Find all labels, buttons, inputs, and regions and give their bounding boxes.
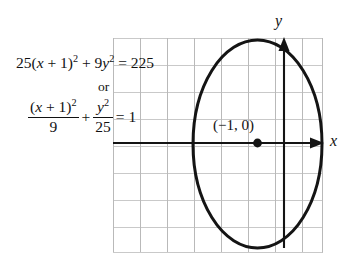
eq1-equals: = 225 xyxy=(114,54,154,71)
x-axis-label: x xyxy=(330,133,337,149)
figure-ellipse-graph: 25(x + 1)2 + 9y2 = 225 or (x + 1)2 9 + y… xyxy=(0,0,351,272)
center-point-marker xyxy=(253,139,262,148)
fraction-x-term: (x + 1)2 9 xyxy=(28,99,79,135)
equation-standard-form: (x + 1)2 9 + y2 25 = 1 xyxy=(28,99,137,135)
x-axis xyxy=(113,138,324,149)
eq2-var-y: y xyxy=(97,98,104,115)
fraction-y-term: y2 25 xyxy=(93,99,113,135)
y-axis-label: y xyxy=(275,13,282,29)
eq1-lead: 25( xyxy=(16,54,37,71)
eq1-var-x: x xyxy=(37,54,44,71)
fraction-x-numerator: (x + 1)2 xyxy=(28,99,79,117)
eq1-plus: + 1) xyxy=(44,54,73,71)
equation-primary: 25(x + 1)2 + 9y2 = 225 xyxy=(16,55,154,71)
fraction-x-denominator: 9 xyxy=(47,118,59,136)
eq2-equals: = 1 xyxy=(115,109,137,125)
eq2-plus-operator: + xyxy=(81,109,92,125)
plot-overlay xyxy=(0,0,351,272)
center-point-label: (−1, 0) xyxy=(213,118,254,133)
eq2-var-y-exponent: 2 xyxy=(104,97,109,108)
eq2-num-exponent: 2 xyxy=(71,97,76,108)
eq1-op: + 9 xyxy=(78,54,102,71)
fraction-y-numerator: y2 xyxy=(95,99,111,117)
fraction-y-denominator: 25 xyxy=(93,118,113,136)
eq2-num-rest: + 1) xyxy=(42,98,71,115)
equation-connector-or: or xyxy=(98,80,109,94)
